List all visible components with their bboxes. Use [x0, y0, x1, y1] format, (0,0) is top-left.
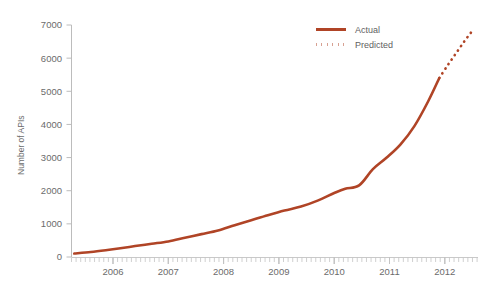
y-tick-label: 7000 [41, 19, 62, 30]
y-tick-label: 0 [57, 251, 62, 262]
x-tick-label: 2010 [324, 266, 345, 277]
chart-legend: Actual Predicted [316, 25, 393, 50]
series-line-actual [74, 78, 439, 253]
x-tick-label: 2008 [213, 266, 234, 277]
y-tick-label: 3000 [41, 152, 62, 163]
y-tick-label: 2000 [41, 185, 62, 196]
series-line-predicted [439, 31, 472, 78]
chart-plot-area: 01000200030004000500060007000 2006200720… [0, 0, 480, 296]
x-tick-label: 2007 [158, 266, 179, 277]
x-minor-tick-group [72, 258, 478, 265]
y-tick-label: 5000 [41, 86, 62, 97]
y-axis-title: Number of APIs [16, 115, 26, 175]
x-tick-label: 2009 [268, 266, 289, 277]
y-tick-label: 6000 [41, 53, 62, 64]
y-tick-label: 1000 [41, 218, 62, 229]
y-tick-group: 01000200030004000500060007000 [41, 19, 72, 262]
x-tick-label: 2011 [379, 266, 399, 277]
x-tick-label: 2006 [102, 266, 123, 277]
legend-label-actual: Actual [355, 25, 380, 35]
y-tick-label: 4000 [41, 119, 62, 130]
legend-label-predicted: Predicted [355, 40, 393, 50]
api-growth-line-chart: 01000200030004000500060007000 2006200720… [0, 0, 480, 296]
x-tick-label: 2012 [434, 266, 455, 277]
